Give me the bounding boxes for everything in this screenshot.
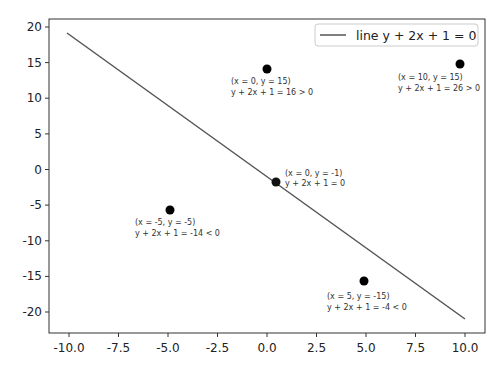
y-tick-label: -15 — [22, 269, 42, 283]
data-point — [456, 60, 465, 69]
annotation: y + 2x + 1 = 16 > 0 — [231, 88, 313, 97]
y-axis: 20 15 10 5 0 -5 -10 -15 -20 — [22, 20, 49, 319]
data-point — [272, 178, 281, 187]
y-tick-label: 20 — [27, 20, 42, 34]
annotation: (x = 5, y = -15) — [327, 292, 390, 301]
x-tick-label: -2.5 — [206, 341, 229, 355]
x-tick-label: 10.0 — [452, 341, 479, 355]
annotation: (x = 0, y = -1) — [285, 169, 342, 178]
x-tick-label: 0.0 — [257, 341, 276, 355]
y-tick-label: 0 — [34, 163, 42, 177]
legend: line y + 2x + 1 = 0 — [315, 24, 478, 46]
annotation: (x = -5, y = -5) — [135, 218, 195, 227]
x-tick-label: 5.0 — [356, 341, 375, 355]
annotation: y + 2x + 1 = -4 < 0 — [327, 303, 407, 312]
annotation: y + 2x + 1 = 26 > 0 — [398, 84, 480, 93]
x-tick-label: 7.5 — [406, 341, 425, 355]
x-axis: -10.0 -7.5 -5.0 -2.5 0.0 2.5 5.0 7.5 10.… — [53, 333, 478, 355]
y-tick-label: 15 — [27, 56, 42, 70]
y-tick-label: 10 — [27, 91, 42, 105]
legend-label: line y + 2x + 1 = 0 — [356, 28, 476, 43]
annotation: y + 2x + 1 = -14 < 0 — [135, 229, 220, 238]
data-point — [166, 206, 175, 215]
x-tick-label: -5.0 — [156, 341, 179, 355]
annotation: (x = 0, y = 15) — [231, 77, 291, 86]
chart-canvas: 20 15 10 5 0 -5 -10 -15 -20 -10.0 -7.5 -… — [0, 0, 502, 370]
x-tick-label: 2.5 — [307, 341, 326, 355]
annotation: y + 2x + 1 = 0 — [285, 179, 345, 188]
x-tick-label: -7.5 — [107, 341, 130, 355]
y-tick-label: 5 — [34, 127, 42, 141]
data-point — [263, 65, 272, 74]
y-tick-label: -5 — [30, 198, 42, 212]
annotation: (x = 10, y = 15) — [398, 73, 463, 82]
y-tick-label: -20 — [22, 305, 42, 319]
x-tick-label: -10.0 — [53, 341, 84, 355]
y-tick-label: -10 — [22, 234, 42, 248]
data-point — [360, 277, 369, 286]
